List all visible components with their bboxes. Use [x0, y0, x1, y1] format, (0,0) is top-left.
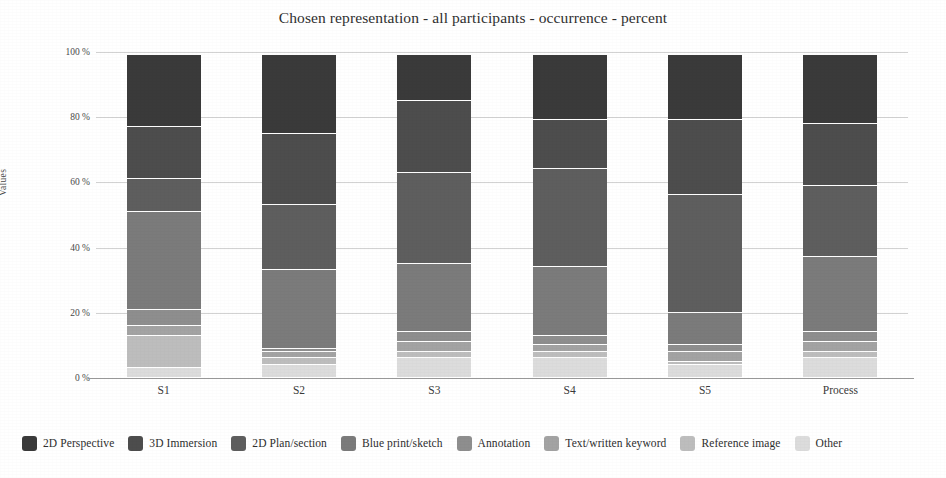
x-axis-tick-label: S5 [645, 384, 765, 396]
x-axis-tick-label: S2 [239, 384, 359, 396]
bar-segment[interactable] [262, 205, 336, 270]
bar-segment[interactable] [668, 55, 742, 120]
legend-label: 3D Immersion [149, 437, 217, 449]
y-axis-tick-label: 60 % [52, 177, 90, 187]
bar-segment[interactable] [397, 358, 471, 378]
bar-segment[interactable] [127, 368, 201, 378]
bar-segment[interactable] [533, 345, 607, 352]
bar-segment[interactable] [803, 342, 877, 352]
bar-segment[interactable] [397, 264, 471, 332]
bar-segment[interactable] [533, 352, 607, 359]
bar-segment[interactable] [397, 101, 471, 173]
legend-swatch-icon [341, 436, 356, 451]
legend-item[interactable]: 3D Immersion [128, 436, 217, 451]
bar-segment[interactable] [803, 352, 877, 359]
legend-swatch-icon [795, 436, 810, 451]
y-axis-title: Values [0, 169, 8, 196]
bar-segment[interactable] [262, 352, 336, 359]
legend-label: Text/written keyword [565, 437, 666, 449]
gridline [96, 248, 908, 249]
bar-stack [127, 52, 201, 378]
legend-label: Reference image [701, 437, 780, 449]
chart-container: Chosen representation - all participants… [0, 0, 946, 478]
chart-title: Chosen representation - all participants… [0, 9, 946, 27]
bar-segment[interactable] [803, 358, 877, 378]
x-axis-tick-label: S4 [510, 384, 630, 396]
legend-item[interactable]: Annotation [457, 436, 531, 451]
bar-segment[interactable] [397, 352, 471, 359]
legend-label: Other [816, 437, 843, 449]
bar-segment[interactable] [803, 55, 877, 123]
bar-segment[interactable] [262, 134, 336, 206]
legend-label: 2D Perspective [43, 437, 114, 449]
gridline [96, 182, 908, 183]
bar-stack [803, 52, 877, 378]
bar-segment[interactable] [803, 124, 877, 186]
y-axis-tick-label: 40 % [52, 243, 90, 253]
bar-segment[interactable] [127, 127, 201, 179]
legend-swatch-icon [22, 436, 37, 451]
bar-segment[interactable] [262, 358, 336, 365]
bar-segment[interactable] [668, 195, 742, 312]
legend-swatch-icon [231, 436, 246, 451]
bar-segment[interactable] [533, 55, 607, 120]
bar-segment[interactable] [127, 179, 201, 212]
gridline [96, 52, 908, 53]
bar-segment[interactable] [533, 169, 607, 267]
bar-stack [397, 52, 471, 378]
bar-segment[interactable] [397, 332, 471, 342]
bar-stack [533, 52, 607, 378]
x-axis-tick-label: S3 [374, 384, 494, 396]
bar-segment[interactable] [262, 365, 336, 378]
bar-segment[interactable] [533, 267, 607, 335]
bar-segment[interactable] [668, 365, 742, 378]
bar-segment[interactable] [533, 336, 607, 346]
bar-stack [668, 52, 742, 378]
legend-item[interactable]: Other [795, 436, 843, 451]
y-axis-tick-label: 0 % [52, 373, 90, 383]
x-axis-tick-label: Process [780, 384, 900, 396]
bar-segment[interactable] [262, 349, 336, 352]
legend-item[interactable]: 2D Perspective [22, 436, 114, 451]
bar-segment[interactable] [397, 173, 471, 264]
legend-label: Annotation [478, 437, 531, 449]
y-axis-tick-label: 80 % [52, 112, 90, 122]
bar-segment[interactable] [668, 352, 742, 362]
bar-segment[interactable] [668, 120, 742, 195]
legend-item[interactable]: Text/written keyword [544, 436, 666, 451]
bar-segment[interactable] [533, 358, 607, 378]
legend-item[interactable]: Reference image [680, 436, 780, 451]
bar-segment[interactable] [668, 362, 742, 365]
y-axis-tick-labels: 0 %20 %40 %60 %80 %100 % [46, 52, 90, 378]
legend-swatch-icon [128, 436, 143, 451]
bar-segment[interactable] [127, 55, 201, 127]
bar-segment[interactable] [262, 55, 336, 133]
y-axis-tick-label: 100 % [52, 47, 90, 57]
y-axis-tick-label: 20 % [52, 308, 90, 318]
bar-segment[interactable] [803, 257, 877, 332]
x-axis-tick-label: S1 [104, 384, 224, 396]
bar-segment[interactable] [127, 326, 201, 336]
bar-segment[interactable] [262, 270, 336, 348]
bar-segment[interactable] [127, 310, 201, 326]
bar-segment[interactable] [668, 313, 742, 346]
legend-item[interactable]: Blue print/sketch [341, 436, 443, 451]
bar-segment[interactable] [397, 55, 471, 101]
legend-swatch-icon [544, 436, 559, 451]
gridline [96, 313, 908, 314]
gridline [96, 117, 908, 118]
bar-segment[interactable] [533, 120, 607, 169]
bar-segment[interactable] [803, 186, 877, 258]
legend-label: Blue print/sketch [362, 437, 443, 449]
bar-segment[interactable] [803, 332, 877, 342]
bar-segment[interactable] [127, 336, 201, 369]
legend-item[interactable]: 2D Plan/section [231, 436, 327, 451]
bar-segment[interactable] [127, 212, 201, 310]
chart-legend: 2D Perspective3D Immersion2D Plan/sectio… [22, 430, 934, 456]
bar-segment[interactable] [397, 342, 471, 352]
bar-segment[interactable] [668, 345, 742, 352]
legend-swatch-icon [457, 436, 472, 451]
legend-swatch-icon [680, 436, 695, 451]
bar-stack [262, 52, 336, 378]
plot-area [96, 52, 908, 378]
